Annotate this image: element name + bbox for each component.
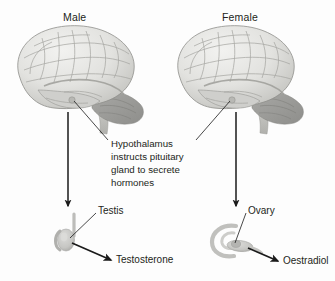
testosterone-secretion-arrow (72, 243, 111, 260)
oestradiol-secretion-arrow (248, 248, 278, 261)
male-hypothalamus (69, 97, 75, 103)
ovary-illustration (212, 226, 262, 257)
ovary-body (231, 241, 240, 248)
female-hypothalamus (229, 97, 235, 103)
testosterone-label: Testosterone (116, 254, 173, 267)
male-column-label: Male (63, 11, 86, 24)
female-column-label: Female (222, 11, 258, 24)
testis-label: Testis (98, 205, 124, 218)
testis-illustration (56, 214, 75, 251)
endocrine-axis-diagram: Male Female Hypothalamus instructs pitui… (0, 0, 335, 281)
oestradiol-label: Oestradiol (283, 255, 329, 268)
hypothalamus-note: Hypothalamus instructs pituitary gland t… (111, 138, 203, 190)
ovary-label: Ovary (248, 205, 275, 218)
testis-highlight (61, 233, 68, 242)
male-brain-illustration (18, 26, 144, 134)
female-brain-illustration (178, 26, 304, 134)
ovary-label-leader-line (235, 213, 246, 243)
